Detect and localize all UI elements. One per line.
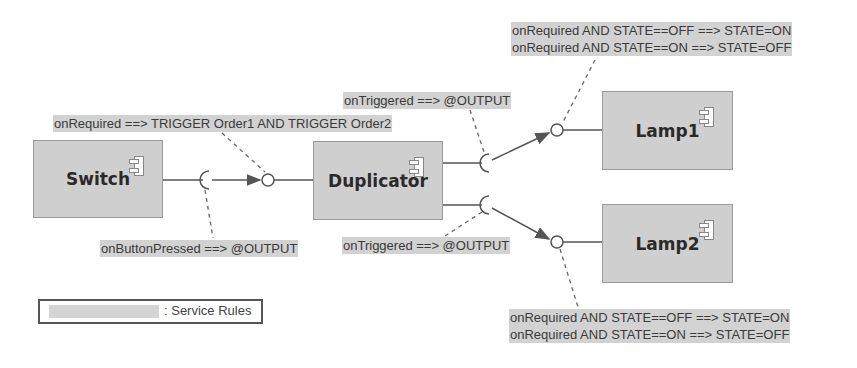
rule-lamp1-off: onRequired AND STATE==ON ==> STATE=OFF — [511, 39, 792, 56]
rule-duplicator-output-bottom: onTriggered ==> @OUTPUT — [342, 237, 510, 254]
legend-swatch — [49, 305, 159, 318]
legend-label: : Service Rules — [164, 303, 251, 318]
rule-lamp2-on: onRequired AND STATE==OFF ==> STATE=ON — [509, 309, 790, 326]
duplicator-component[interactable]: Duplicator — [313, 141, 443, 220]
rule-switch-output: onButtonPressed ==> @OUTPUT — [100, 240, 298, 257]
component-icon — [414, 157, 424, 177]
rule-duplicator-output-top: onTriggered ==> @OUTPUT — [343, 92, 511, 109]
lamp1-component[interactable]: Lamp1 — [602, 91, 733, 170]
component-icon — [134, 156, 144, 176]
rule-lamp1-on: onRequired AND STATE==OFF ==> STATE=ON — [511, 22, 792, 39]
legend: : Service Rules — [38, 299, 263, 324]
component-icon — [704, 220, 714, 240]
component-icon — [704, 107, 714, 127]
component-diagram: Switch Duplicator Lamp1 Lamp2 onRequired… — [0, 0, 857, 368]
lamp2-component[interactable]: Lamp2 — [602, 204, 733, 283]
provided-interface-icon — [262, 174, 274, 186]
switch-component[interactable]: Switch — [33, 140, 163, 218]
rule-duplicator-required: onRequired ==> TRIGGER Order1 AND TRIGGE… — [53, 115, 392, 132]
rule-lamp2-off: onRequired AND STATE==ON ==> STATE=OFF — [509, 326, 790, 343]
